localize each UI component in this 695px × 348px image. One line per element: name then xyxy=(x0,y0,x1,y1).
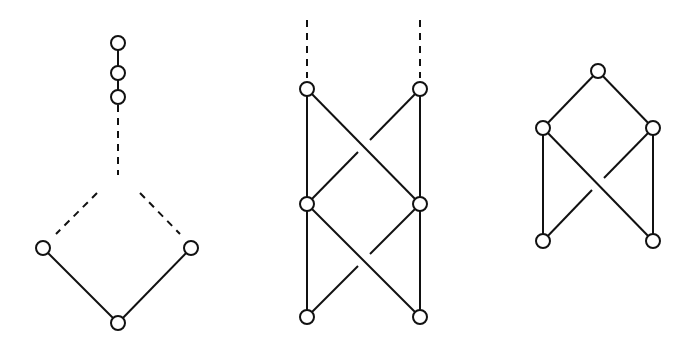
edge xyxy=(543,190,592,241)
edge xyxy=(604,128,653,178)
lattice-node xyxy=(300,82,314,96)
edge xyxy=(307,152,358,204)
lattice-node xyxy=(36,241,50,255)
edge xyxy=(370,204,420,254)
lattice-node xyxy=(591,64,605,78)
hasse-diagrams-canvas xyxy=(0,0,695,348)
lattice-node xyxy=(111,316,125,330)
dashed-edge xyxy=(56,193,97,234)
edge xyxy=(543,71,598,128)
lattice-node xyxy=(300,310,314,324)
edge xyxy=(118,248,191,323)
lattice-node xyxy=(111,36,125,50)
lattice-node xyxy=(413,82,427,96)
lattice-node xyxy=(413,310,427,324)
edge xyxy=(370,89,420,140)
edge xyxy=(598,71,653,128)
edge xyxy=(307,266,358,317)
lattice-node xyxy=(413,197,427,211)
lattice-node xyxy=(536,234,550,248)
lattice-node xyxy=(111,90,125,104)
left-lattice-diagram xyxy=(36,36,198,330)
middle-lattice-diagram xyxy=(300,20,427,324)
lattice-node xyxy=(300,197,314,211)
edge xyxy=(43,248,118,323)
lattice-node xyxy=(184,241,198,255)
lattice-node xyxy=(111,66,125,80)
right-lattice-diagram xyxy=(536,64,660,248)
lattice-node xyxy=(536,121,550,135)
lattice-node xyxy=(646,234,660,248)
dashed-edge xyxy=(140,193,180,234)
lattice-node xyxy=(646,121,660,135)
